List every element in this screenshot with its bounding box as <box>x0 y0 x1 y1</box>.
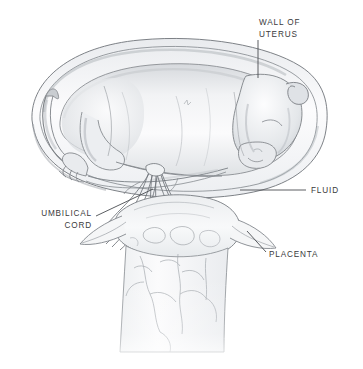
placenta <box>80 195 276 259</box>
label-wall-of-uterus: WALL OF UTERUS <box>259 17 300 40</box>
label-umbilical-cord: UMBILICAL CORD <box>14 208 92 231</box>
cervix-tube <box>112 246 236 369</box>
fetus-in-uterus-illustration <box>0 0 363 369</box>
label-fluid: FLUID <box>311 185 339 197</box>
label-placenta: PLACENTA <box>269 249 318 261</box>
